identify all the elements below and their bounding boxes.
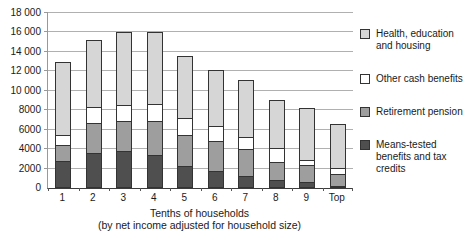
bar-segment (269, 162, 285, 181)
legend-swatch (360, 140, 370, 150)
legend-label-line: credits (376, 163, 447, 175)
bar-segment (208, 70, 224, 127)
bar-decile-3 (116, 33, 132, 188)
y-tick-mark (44, 148, 48, 149)
y-tick-label: 4000 (19, 144, 41, 154)
bar-segment (177, 166, 193, 188)
bar-segment (116, 121, 132, 152)
legend-label-line: Means-tested (376, 139, 447, 151)
bar-segment (147, 32, 163, 106)
x-axis-title: Tenths of households (47, 207, 352, 219)
x-tick-label: 6 (212, 192, 218, 203)
bar-segment (269, 100, 285, 150)
bar-segment (116, 151, 132, 188)
legend-label-line: Health, education (376, 28, 454, 40)
stacked-bar-chart: 0200040006000800010 00012 00014 00016 00… (0, 0, 472, 242)
bar-segment (177, 56, 193, 119)
bar-segment (299, 165, 315, 183)
y-tick-mark (44, 51, 48, 52)
legend-swatch (360, 74, 370, 84)
x-tick-mark (140, 188, 141, 191)
bar-segment (269, 148, 285, 163)
y-tick-mark (44, 12, 48, 13)
y-tick-label: 6000 (19, 125, 41, 135)
legend-item: Health, educationand housing (360, 28, 470, 52)
x-tick-mark (231, 188, 232, 191)
bar-segment (86, 40, 102, 108)
bar-decile-5 (177, 57, 193, 188)
bar-segment (330, 186, 346, 188)
y-tick-label: 12 000 (10, 66, 41, 76)
bar-decile-1 (55, 63, 71, 188)
y-tick-mark (44, 168, 48, 169)
legend-item: Retirement pension (360, 106, 470, 118)
x-tick-label: 2 (90, 192, 96, 203)
legend: Health, educationand housingOther cash b… (360, 28, 470, 175)
bar-segment (238, 137, 254, 151)
x-tick-label: Top (329, 192, 345, 203)
bar-segment (238, 176, 254, 188)
bar-segment (299, 182, 315, 188)
x-tick-mark (79, 188, 80, 191)
bar-segment (238, 80, 254, 137)
bar-decile-9 (299, 109, 315, 188)
x-tick-label: 1 (59, 192, 65, 203)
bar-segment (177, 118, 193, 136)
legend-item: Means-testedbenefits and taxcredits (360, 139, 470, 175)
y-tick-label: 0 (35, 183, 41, 193)
bar-decile-6 (208, 71, 224, 189)
plot-area (47, 13, 353, 189)
y-tick-mark (44, 109, 48, 110)
x-tick-mark (48, 188, 49, 191)
y-tick-label: 8000 (19, 105, 41, 115)
y-axis: 0200040006000800010 00012 00014 00016 00… (0, 13, 43, 188)
bar-segment (147, 121, 163, 156)
bar-segment (208, 171, 224, 188)
legend-label: Retirement pension (376, 106, 463, 118)
bar-segment (55, 145, 71, 162)
legend-label-line: and housing (376, 40, 454, 52)
y-tick-mark (44, 31, 48, 32)
bar-decile-4 (147, 33, 163, 188)
bar-decile-7 (238, 81, 254, 188)
bar-segment (147, 155, 163, 188)
x-tick-mark (292, 188, 293, 191)
x-tick-label: 7 (242, 192, 248, 203)
bar-segment (55, 62, 71, 136)
legend-item: Other cash benefits (360, 73, 470, 85)
legend-label-line: Retirement pension (376, 106, 463, 118)
bar-segment (55, 161, 71, 188)
legend-label: Means-testedbenefits and taxcredits (376, 139, 447, 175)
bar-segment (116, 32, 132, 107)
gridline-16000 (48, 31, 353, 32)
x-tick-mark (170, 188, 171, 191)
bar-segment (269, 180, 285, 188)
x-tick-label: 8 (273, 192, 279, 203)
gridline-18000 (48, 12, 353, 13)
legend-label: Other cash benefits (376, 73, 463, 85)
x-axis-subtitle: (by net income adjusted for household si… (47, 219, 352, 231)
bar-segment (86, 123, 102, 154)
x-tick-label: 5 (181, 192, 187, 203)
y-tick-mark (44, 70, 48, 71)
x-tick-label: 3 (120, 192, 126, 203)
y-tick-mark (44, 90, 48, 91)
y-tick-mark (44, 129, 48, 130)
legend-swatch (360, 29, 370, 39)
bar-segment (86, 153, 102, 188)
y-tick-label: 18 000 (10, 8, 41, 18)
legend-label: Health, educationand housing (376, 28, 454, 52)
y-tick-label: 14 000 (10, 47, 41, 57)
bar-segment (147, 104, 163, 122)
bar-decile-2 (86, 41, 102, 188)
x-tick-label: 9 (303, 192, 309, 203)
bar-segment (299, 108, 315, 161)
bar-segment (208, 126, 224, 143)
x-tick-mark (201, 188, 202, 191)
x-tick-mark (262, 188, 263, 191)
bar-segment (177, 135, 193, 167)
bar-decile-8 (269, 101, 285, 188)
bar-decile-Top (330, 125, 346, 188)
bar-segment (238, 149, 254, 177)
bar-segment (208, 141, 224, 172)
